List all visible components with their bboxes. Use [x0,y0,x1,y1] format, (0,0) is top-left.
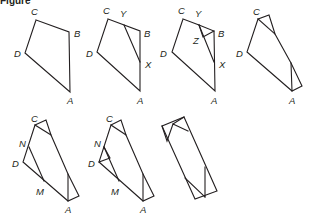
shape-outline [99,120,154,201]
fold-line [29,147,44,181]
vertex-label-b: B [218,28,225,39]
vertex-label-d: D [12,158,19,169]
fold-line [185,178,205,197]
vertex-label-a: A [139,204,146,213]
vertex-label-x: X [144,59,152,70]
vertex-label-b: B [74,28,81,39]
figure-canvas: Figure CBDACYBDXACYZBDXACDACNDMACNDMA [0,0,310,213]
vertex-label-y: Y [120,8,127,19]
vertex-label-a: A [210,95,217,106]
fold-line [111,125,126,135]
vertex-label-a: A [288,95,295,106]
vertex-label-n: N [94,138,101,149]
vertex-label-c: C [178,5,185,16]
vertex-label-c: C [253,6,260,17]
figure-step-5: CNDMA [12,113,79,213]
vertex-label-m: M [36,186,44,197]
vertex-label-y: Y [195,8,202,19]
vertex-label-d: D [14,48,21,59]
vertex-label-m: M [111,186,119,197]
fold-line [291,63,292,91]
paper-folding-diagram: Figure CBDACYBDXACYZBDXACDACNDMACNDMA [0,0,310,213]
figure-title: Figure [0,0,31,6]
vertex-label-c: C [103,5,110,16]
figure-steps: CBDACYBDXACYZBDXACDACNDMACNDMA [12,5,302,213]
shape-outline [23,120,79,201]
vertex-label-n: N [19,138,26,149]
shape-outline [25,20,70,92]
shape-outline [172,19,215,91]
figure-step-3: CYZBDXA [160,5,226,106]
figure-step-4: CDA [236,6,302,106]
vertex-label-a: A [66,95,73,106]
figure-step-6: CNDMA [88,113,154,213]
vertex-label-x: X [218,59,226,70]
vertex-label-c: C [106,113,113,124]
vertex-label-d: D [86,48,93,59]
vertex-label-c: C [31,113,38,124]
figure-step-1: CBDA [14,6,81,106]
figure-step-2: CYBDXA [86,5,152,106]
vertex-label-z: Z [192,35,200,46]
shape-outline [247,15,302,91]
vertex-label-c: C [31,6,38,17]
vertex-label-b: B [144,28,151,39]
shape-outline [97,19,140,91]
fold-line [199,25,214,37]
shape-outline [162,117,217,199]
vertex-label-a: A [136,95,143,106]
fold-line [162,124,188,141]
vertex-label-d: D [88,158,95,169]
vertex-label-a: A [64,204,71,213]
vertex-label-d: D [236,48,243,59]
figure-step-7 [162,117,217,199]
vertex-label-d: D [160,48,167,59]
